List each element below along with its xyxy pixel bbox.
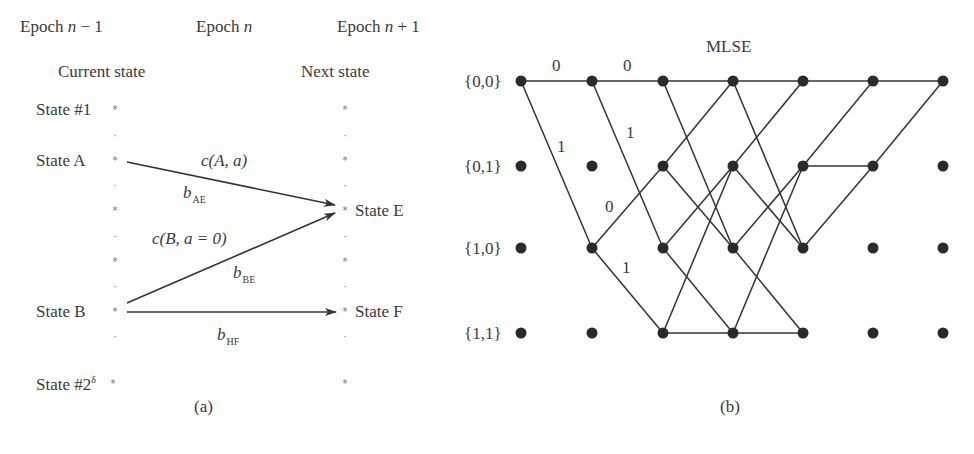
trellis-node [728, 76, 739, 87]
trellis-branch [663, 81, 733, 166]
trellis-node [658, 161, 669, 172]
trellis-node [658, 243, 669, 254]
branch-label: 0 [552, 57, 561, 74]
trellis-branch [873, 81, 943, 166]
trellis-node [868, 161, 879, 172]
mlse-trellis [0, 0, 974, 454]
trellis-node [728, 328, 739, 339]
trellis-node [516, 76, 527, 87]
trellis-branch [803, 81, 873, 166]
trellis-node [868, 243, 879, 254]
trellis-branch [803, 166, 873, 248]
trellis-node [587, 161, 598, 172]
branch-label: 1 [622, 259, 631, 276]
branch-label: 1 [626, 124, 635, 141]
trellis-branch [733, 81, 803, 248]
trellis-node [938, 161, 949, 172]
panel-b-caption: (b) [720, 398, 740, 415]
trellis-node [868, 76, 879, 87]
trellis-node [516, 328, 527, 339]
trellis-branch [663, 81, 733, 248]
trellis-node [516, 243, 527, 254]
trellis-branch [521, 81, 592, 248]
trellis-node [798, 161, 809, 172]
trellis-node [938, 328, 949, 339]
trellis-branch [592, 81, 663, 248]
trellis-node [658, 328, 669, 339]
trellis-branch [663, 248, 733, 333]
trellis-branch [663, 166, 733, 333]
trellis-node [587, 76, 598, 87]
branch-label: 0 [623, 57, 632, 74]
trellis-node [587, 328, 598, 339]
trellis-node [798, 328, 809, 339]
trellis-node [938, 76, 949, 87]
trellis-branch [733, 166, 803, 333]
trellis-node [798, 243, 809, 254]
trellis-branch [592, 166, 663, 248]
trellis-node [868, 328, 879, 339]
trellis-branch [733, 81, 803, 166]
trellis-branch [733, 248, 803, 333]
trellis-node [728, 161, 739, 172]
trellis-node [516, 161, 527, 172]
trellis-node [658, 76, 669, 87]
trellis-node [798, 76, 809, 87]
trellis-node [938, 243, 949, 254]
branch-label: 0 [605, 198, 614, 215]
trellis-node [587, 243, 598, 254]
branch-label: 1 [557, 138, 566, 155]
trellis-node [728, 243, 739, 254]
